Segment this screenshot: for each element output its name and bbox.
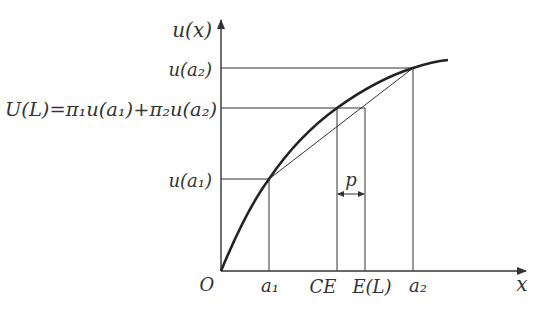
origin-label: O: [200, 274, 215, 295]
u-a1-label: u(a₁): [168, 170, 212, 191]
expected-utility-diagram: u(x) x O u(a₂) U(L)=π₁u(a₁)+π₂u(a₂) u(a₁…: [0, 0, 545, 324]
x-axis-label: x: [516, 272, 527, 296]
UL-label: U(L)=π₁u(a₁)+π₂u(a₂): [5, 99, 217, 120]
y-axis-label: u(x): [172, 18, 212, 42]
utility-curve: [221, 60, 448, 271]
chord-line: [269, 68, 413, 179]
a1-label: a₁: [261, 275, 279, 296]
CE-label: CE: [310, 276, 337, 297]
u-a2-label: u(a₂): [168, 59, 212, 80]
a2-label: a₂: [409, 275, 427, 296]
EL-label: E(L): [351, 276, 391, 297]
risk-premium-label: p: [345, 169, 357, 190]
